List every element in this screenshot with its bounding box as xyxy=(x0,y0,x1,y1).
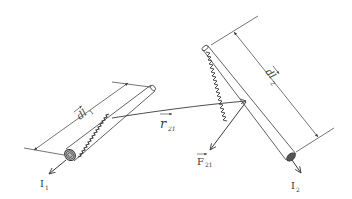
label-dl1-sub: 1 xyxy=(88,108,95,116)
wire2-extension-line-bottom xyxy=(296,128,334,152)
wire2-dimension-line xyxy=(234,32,318,137)
wire1-extension-line-top xyxy=(112,82,150,87)
current-arrow-2 xyxy=(292,160,301,173)
label-f21-text: F xyxy=(197,156,204,167)
diagram-canvas: dl 1 dl 2 r 21 F 21 I 1 I 2 xyxy=(0,0,352,199)
wire2-extension-line-top xyxy=(211,16,258,45)
label-i1-sub: 1 xyxy=(45,184,49,191)
wire2-hatching xyxy=(206,52,227,121)
label-dl2: dl 2 xyxy=(262,66,283,87)
label-i2-sub: 2 xyxy=(296,186,300,193)
current-arrow-1 xyxy=(49,160,66,174)
wire-element-2 xyxy=(201,16,334,173)
label-r21-sub: 21 xyxy=(167,125,176,132)
label-dl1: dl 1 xyxy=(74,102,95,123)
displacement-vector-r21 xyxy=(112,101,246,118)
label-i1: I 1 xyxy=(40,178,49,191)
wire-element-1 xyxy=(24,82,156,174)
label-i1-text: I xyxy=(40,178,44,189)
wire2-top-tip xyxy=(201,44,209,52)
label-r21-text: r xyxy=(160,116,167,131)
label-i2-text: I xyxy=(291,180,295,191)
label-f21-sub: 21 xyxy=(205,161,213,168)
wire1-end-cap xyxy=(62,147,77,163)
wire2-inner-edge xyxy=(208,46,296,154)
label-i2: I 2 xyxy=(291,180,300,193)
label-r21: r 21 xyxy=(160,114,176,132)
wire1-extension-line-bottom xyxy=(24,148,64,155)
force-vector-f21 xyxy=(210,102,246,150)
wire1-bottom-edge xyxy=(74,91,155,161)
label-f21: F 21 xyxy=(197,154,213,168)
label-dl2-sub: 2 xyxy=(269,80,277,87)
label-dl2-text: dl xyxy=(263,66,278,80)
